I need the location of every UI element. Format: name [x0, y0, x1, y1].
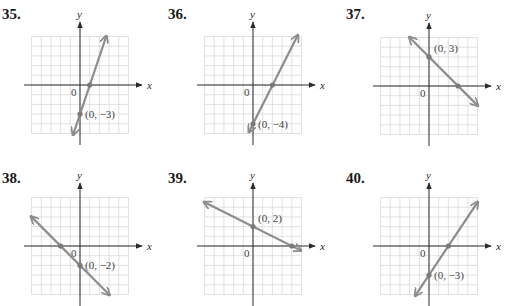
origin-label: 0 [420, 87, 426, 99]
graph-35: xy0(0, −3) [24, 8, 152, 145]
origin-label: 0 [244, 247, 250, 259]
plotted-point [250, 224, 255, 229]
plotted-point [446, 243, 451, 248]
problem-number: 39. [168, 170, 187, 187]
graph-37: xy0(0, 3) [373, 9, 501, 146]
problem-number: 38. [2, 170, 21, 187]
x-axis-label: x [319, 79, 325, 91]
plotted-point [426, 273, 431, 278]
y-axis-label: y [76, 8, 82, 20]
point-label: (0, −3) [85, 108, 115, 121]
plotted-point [77, 112, 82, 117]
plotted-point [456, 83, 461, 88]
graph-36: xy0(0, −4) [197, 8, 325, 145]
x-axis-label: x [495, 240, 501, 252]
plotted-point [87, 82, 92, 87]
point-label: (0, 2) [258, 212, 282, 225]
point-label: (0, −3) [434, 269, 464, 282]
origin-label: 0 [71, 86, 77, 98]
plotted-point [58, 243, 63, 248]
graphs-canvas: xy0(0, −3)xy0(0, −4)xy0(0, 3)xy0(0, −2)x… [0, 0, 506, 306]
plotted-point [426, 54, 431, 59]
plotted-point [289, 243, 294, 248]
graph-40: xy0(0, −3) [373, 169, 501, 306]
problem-number: 40. [346, 170, 365, 187]
problem-number: 37. [346, 6, 365, 23]
plotted-point [250, 121, 255, 126]
origin-label: 0 [244, 86, 250, 98]
y-axis-label: y [249, 8, 255, 20]
problem-number: 36. [168, 6, 187, 23]
x-axis-label: x [319, 240, 325, 252]
plotted-point [77, 263, 82, 268]
y-axis-label: y [76, 169, 82, 181]
plotted-point [270, 82, 275, 87]
y-axis-label: y [425, 169, 431, 181]
y-axis-label: y [425, 9, 431, 21]
x-axis-label: x [146, 240, 152, 252]
x-axis-label: x [495, 80, 501, 92]
point-label: (0, −2) [85, 259, 115, 272]
point-label: (0, −4) [258, 118, 288, 131]
graph-38: xy0(0, −2) [24, 169, 152, 306]
graph-39: xy0(0, 2) [197, 169, 325, 306]
problem-number: 35. [2, 6, 21, 23]
x-axis-label: x [146, 79, 152, 91]
y-axis-label: y [249, 169, 255, 181]
origin-label: 0 [420, 247, 426, 259]
point-label: (0, 3) [434, 42, 458, 55]
